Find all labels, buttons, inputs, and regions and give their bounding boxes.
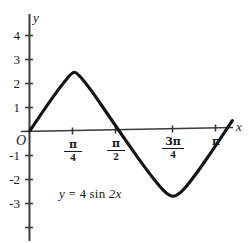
fraction-numerator: 3π — [162, 136, 184, 148]
x-tick-label-3pi-over-4: 3π 4 — [162, 136, 184, 160]
x-axis — [21, 128, 233, 132]
y-tick-label-neg3: -3 — [0, 197, 20, 210]
equation-function-name: sin — [90, 186, 106, 201]
equation-annotation: y = 4 sin 2x — [59, 186, 122, 202]
equation-lhs: y — [59, 186, 65, 201]
equation-coefficient: 4 — [79, 186, 86, 201]
y-tick-label-neg2: -2 — [0, 173, 20, 186]
y-tick-label-2: 2 — [4, 77, 20, 90]
equation-argument: 2x — [109, 186, 122, 201]
fraction-denominator: 4 — [162, 148, 184, 161]
y-tick-label-3: 3 — [4, 53, 20, 66]
fraction-numerator: π — [64, 139, 82, 151]
x-tick-label-pi-over-4: π 4 — [64, 139, 82, 163]
fraction-denominator: 2 — [107, 150, 125, 163]
equation-equals-sign: = — [68, 186, 76, 201]
y-tick-label-4: 4 — [4, 29, 20, 42]
origin-label: O — [16, 134, 26, 148]
y-tick-label-1: 1 — [4, 101, 20, 114]
x-tick-label-pi-over-2: π 2 — [107, 138, 125, 162]
y-tick-label-neg1: -1 — [0, 149, 20, 162]
x-axis-label: x — [236, 120, 242, 133]
fraction-numerator: π — [107, 138, 125, 150]
fraction-denominator: 4 — [64, 151, 82, 164]
figure-container: y x O 4 3 2 1 -1 -2 -3 π 4 π 2 3π 4 π y … — [0, 0, 249, 243]
x-tick-label-pi: π — [209, 135, 223, 148]
sine-curve — [30, 72, 233, 196]
y-axis-label: y — [33, 11, 39, 24]
plot-area — [0, 0, 249, 243]
